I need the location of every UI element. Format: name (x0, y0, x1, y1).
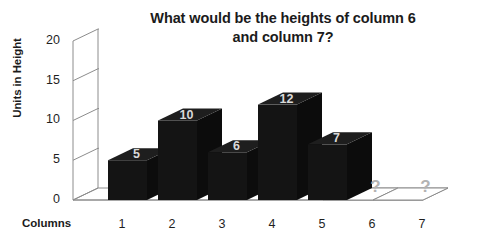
gridline-depth-5 (73, 148, 98, 160)
missing-value-question-mark-7: ? (420, 177, 430, 196)
x-tick-label: 5 (312, 217, 332, 231)
gridline-depth-15 (73, 69, 98, 81)
bar-value-label-5: 7 (333, 131, 340, 145)
x-tick-label: 6 (362, 217, 382, 231)
gridline-depth-10 (73, 109, 98, 121)
bar-value-label-4: 12 (280, 92, 294, 106)
missing-value-question-mark-6: ? (370, 177, 380, 196)
x-tick-label: 2 (162, 217, 182, 231)
x-tick-label: 4 (262, 217, 282, 231)
x-tick-label: 3 (212, 217, 232, 231)
bar-value-label-1: 5 (133, 147, 140, 161)
bar-front-face-5 (308, 144, 347, 200)
bar-front-face-3 (208, 152, 247, 200)
bar-front-face-4 (258, 105, 297, 200)
bar-value-label-2: 10 (180, 108, 194, 122)
bar-front-face-2 (158, 121, 197, 201)
bar-value-label-3: 6 (233, 139, 240, 153)
bar-chart-3d: What would be the heights of column 6 an… (0, 0, 501, 242)
x-tick-label: 7 (412, 217, 432, 231)
plot-area: 5106127?? (0, 0, 501, 242)
x-tick-label: 1 (112, 217, 132, 231)
bar-front-face-1 (108, 160, 147, 200)
gridline-depth-20 (73, 29, 98, 41)
